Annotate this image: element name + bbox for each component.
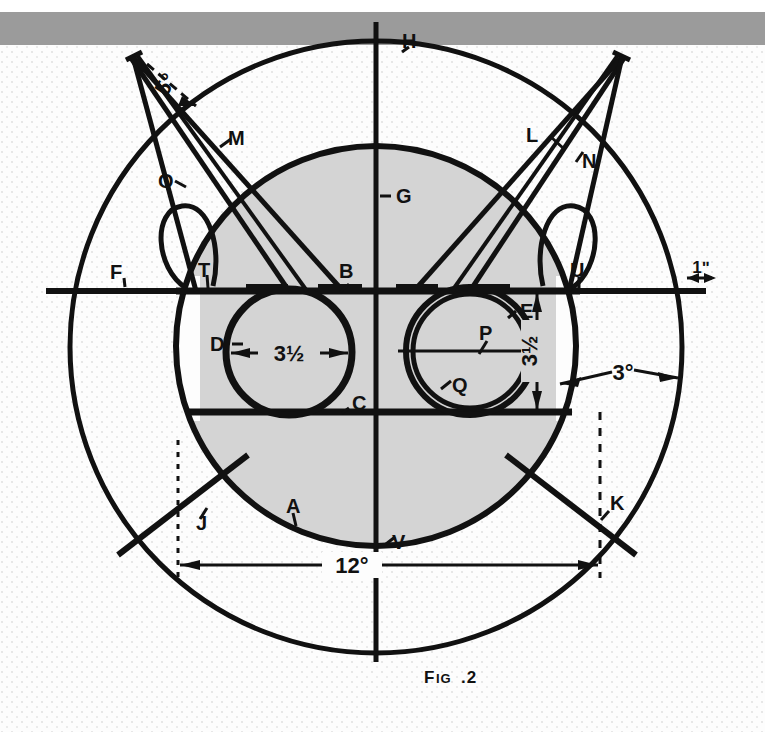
label-v: V [392,531,406,553]
figure-caption-main: F [424,668,435,687]
label-o: O [158,170,174,192]
right-shoulder-block [468,284,510,293]
figure-caption: F IG .2 [424,668,477,687]
dimension-inch: 1ʺ [687,258,716,283]
label-j: J [196,512,207,534]
label-p: P [479,322,492,344]
label-u: U [570,259,584,281]
label-l: L [526,124,538,146]
label-f: F [110,261,122,283]
leader-k [601,511,609,520]
figure-2-drawing: 12° 3½ 3½ 3° [0,0,765,732]
leader-f [124,278,125,287]
right-shoulder-block-2 [396,284,438,293]
label-a: A [286,495,300,517]
cutout-right [556,276,616,421]
dim-overall-arrow-left [180,560,200,570]
label-d: D [210,333,224,355]
label-e: E [520,300,533,322]
dim-left-bore-value: 3½ [274,341,305,366]
leader-o [175,181,186,187]
dim-inch-value: 1ʺ [692,258,710,277]
diagram-canvas: 12° 3½ 3½ 3° [0,0,765,732]
figure-caption-small: IG [436,671,452,686]
label-h: H [402,30,416,52]
dim-overall-value: 12° [335,553,368,578]
label-m: M [228,127,245,149]
dim-right-bore-value: 3½ [517,336,542,367]
figure-page: 12° 3½ 3½ 3° [0,0,765,732]
lower-left-strut [118,455,248,555]
left-shoulder-block [246,284,288,293]
label-c: C [352,392,366,414]
label-g: G [396,185,412,207]
label-t: T [198,259,210,281]
label-q: Q [452,374,468,396]
label-b: B [339,260,353,282]
dim-rim-value: 3° [612,360,633,385]
cutout-left [140,276,200,421]
dimension-overall: 12° [180,552,598,578]
figure-caption-tail: .2 [461,668,477,687]
label-k: K [610,492,625,514]
label-n: N [582,150,596,172]
